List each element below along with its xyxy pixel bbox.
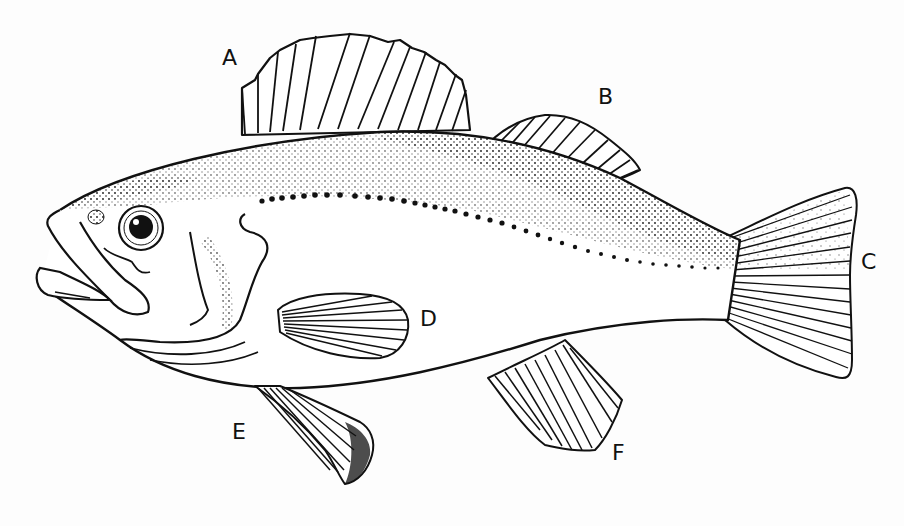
label-d: D [420, 308, 437, 330]
label-b: B [598, 86, 613, 108]
label-e: E [232, 421, 246, 443]
label-a: A [222, 47, 237, 69]
spiny-dorsal-fin [242, 33, 470, 135]
pelvic-fin [255, 386, 373, 484]
anal-fin [488, 340, 622, 451]
label-f: F [612, 442, 625, 464]
fish-anatomy-diagram: A B C D E F [0, 0, 904, 526]
caudal-fin [720, 188, 857, 378]
fish-illustration [0, 0, 904, 526]
label-c: C [861, 251, 876, 273]
